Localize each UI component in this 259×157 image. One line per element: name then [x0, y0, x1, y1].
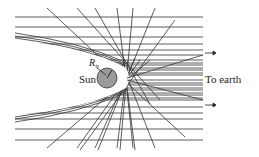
radius-symbol: R [88, 57, 95, 68]
arrow-head-icon [213, 103, 216, 107]
radius-subscript: ⊙ [95, 64, 99, 69]
arrow-lower [205, 103, 216, 107]
to-earth-label: To earth [205, 73, 242, 85]
sun-label: Sun [79, 73, 97, 85]
arrow-head-icon [213, 51, 216, 55]
arrow-upper [205, 51, 216, 55]
lensing-diagram: Sun R⊙ To earth [0, 0, 259, 157]
